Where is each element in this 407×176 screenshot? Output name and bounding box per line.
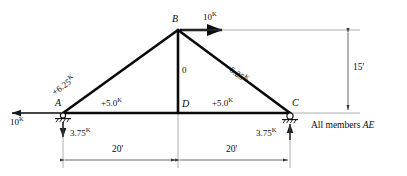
member-force-BD: 0 <box>182 66 187 75</box>
dimension-label-span-left: 20' <box>112 145 123 155</box>
load-label-B-value: 10 <box>203 12 212 22</box>
dimension-label-height: 15' <box>353 63 364 73</box>
reaction-label-A-horizontal: 10K <box>10 118 24 127</box>
note-all-members-text: All members AE <box>311 120 374 130</box>
reaction-label-A-horizontal-value: 10 <box>10 117 19 127</box>
dimension-label-span-right: 20' <box>226 145 237 155</box>
reaction-label-A-vertical: 3.75K <box>70 129 90 138</box>
reaction-label-C-vertical: 3.75K <box>256 129 276 138</box>
load-label-B: 10K <box>203 13 217 22</box>
note-all-members: All members AE <box>311 121 374 131</box>
member-force-DC-unit: K <box>228 96 233 103</box>
member-force-AD: +5.0K <box>101 99 122 108</box>
truss-diagram: B A C D +6.25K –6.25K +5.0K +5.0K 0 10K … <box>0 0 407 176</box>
member-force-AD-value: +5.0 <box>101 98 117 108</box>
member-force-DC: +5.0K <box>212 99 233 108</box>
support-roller-C <box>282 113 298 123</box>
member-force-AD-unit: K <box>117 96 122 103</box>
reaction-label-A-vertical-unit: K <box>86 126 91 133</box>
reaction-label-C-vertical-unit: K <box>272 126 277 133</box>
truss-members <box>63 30 290 113</box>
node-label-A: A <box>55 98 61 108</box>
node-label-D: D <box>182 99 189 109</box>
load-label-B-unit: K <box>212 10 217 17</box>
reaction-label-A-vertical-value: 3.75 <box>70 128 86 138</box>
node-label-C: C <box>292 98 299 108</box>
node-label-B: B <box>172 14 178 24</box>
reaction-label-C-vertical-value: 3.75 <box>256 128 272 138</box>
member-force-DC-value: +5.0 <box>212 98 228 108</box>
reaction-label-A-horizontal-unit: K <box>19 115 24 122</box>
